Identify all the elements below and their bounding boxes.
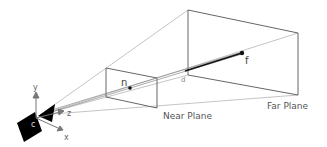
axis-x-label: x	[64, 134, 69, 142]
point-n	[128, 86, 132, 90]
near-plane-label: Near Plane	[163, 112, 212, 121]
point-n-label: n	[121, 78, 127, 88]
far-plane-label: Far Plane	[267, 102, 308, 111]
axis-y-label: y	[33, 84, 38, 92]
camera-center-label: c	[31, 121, 35, 129]
point-f	[240, 51, 244, 55]
axis-z-label: z	[67, 110, 71, 118]
frustum-diagram	[0, 0, 327, 147]
segment-d-to-f	[185, 53, 242, 71]
point-f-label: f	[245, 56, 249, 66]
frustum-rays	[40, 10, 298, 115]
distance-label: d	[181, 77, 185, 84]
